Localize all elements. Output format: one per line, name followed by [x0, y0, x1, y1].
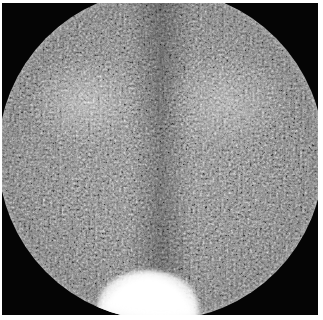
- detector-field: [2, 3, 318, 315]
- scintigraphy-image: [2, 3, 318, 315]
- field-edge: [2, 3, 318, 315]
